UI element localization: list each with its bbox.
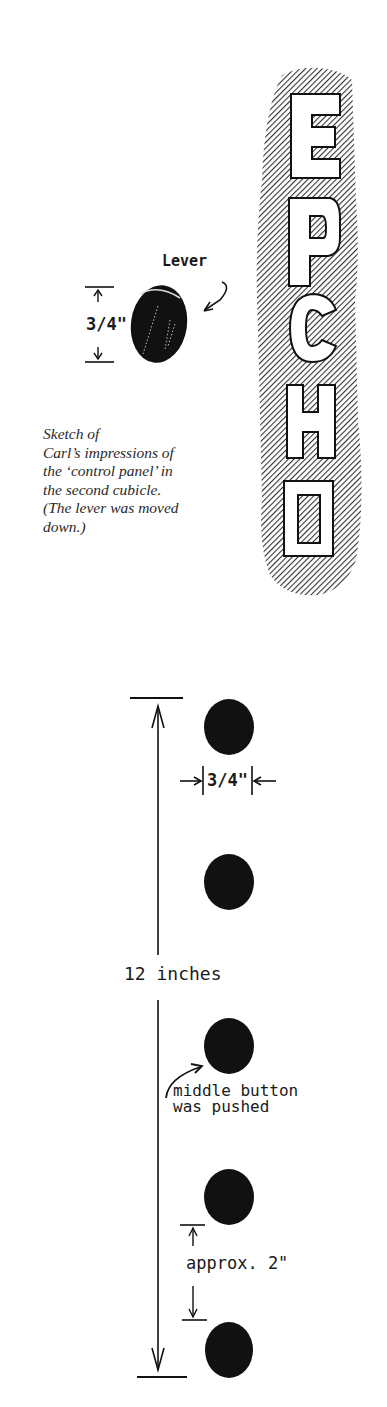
caption-line: Carl’s impressions of <box>43 444 233 463</box>
middle-button-note: middle button was pushed <box>173 1083 298 1115</box>
lever-dimension-label: 3/4" <box>86 314 127 334</box>
epcho-sign <box>257 68 362 596</box>
caption-line: the ‘control panel’ in <box>43 462 233 481</box>
caption-line: the second cubicle. <box>43 481 233 500</box>
button-panel-sketch <box>130 698 276 1378</box>
caption-line: (The lever was moved <box>43 499 233 518</box>
sketch-caption: Sketch of Carl’s impressions of the ‘con… <box>43 425 233 536</box>
note-line: was pushed <box>173 1099 298 1115</box>
caption-line: Sketch of <box>43 425 233 444</box>
sketch-drawing <box>0 0 387 1407</box>
spacing-label: approx. 2" <box>186 1253 288 1273</box>
button-width-label: 3/4" <box>207 770 248 790</box>
total-height-label: 12 inches <box>124 963 222 984</box>
lever-label: Lever <box>162 252 207 270</box>
caption-line: down.) <box>43 518 233 537</box>
